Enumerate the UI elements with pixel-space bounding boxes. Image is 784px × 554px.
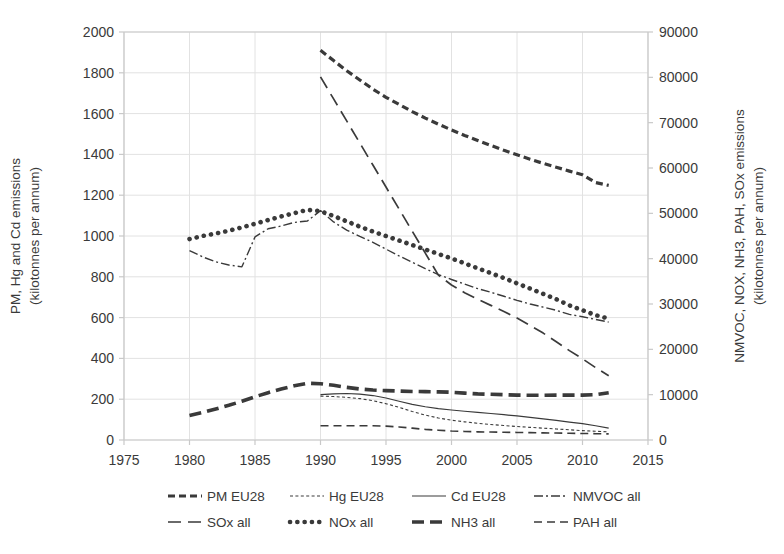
chart-canvas: 0200400600800100012001400160018002000 01…: [0, 0, 784, 554]
y-axis-right-tick-label: 90000: [659, 24, 698, 40]
y-axis-left-tick-label: 1600: [83, 106, 114, 122]
legend-label: Cd EU28: [451, 489, 506, 504]
x-axis-tick-label: 1995: [370, 452, 401, 468]
x-axis-tick-label: 1990: [305, 452, 336, 468]
x-axis-tick-label: 2000: [436, 452, 467, 468]
y-axis-left-tick-label: 1000: [83, 228, 114, 244]
legend-label: PAH all: [573, 515, 617, 530]
x-axis-tick-label: 2005: [501, 452, 532, 468]
y-axis-left-tick-label: 400: [91, 350, 115, 366]
legend-label: PM EU28: [207, 489, 265, 504]
y-axis-right-tick-label: 70000: [659, 115, 698, 131]
y-axis-left-tick-label: 200: [91, 391, 115, 407]
y-axis-left-tick-label: 1200: [83, 187, 114, 203]
legend-label: Hg EU28: [329, 489, 384, 504]
y-axis-left-tick-label: 1400: [83, 146, 114, 162]
y-axis-left-tick-label: 0: [106, 432, 114, 448]
legend-label: NMVOC all: [573, 489, 641, 504]
x-axis-tick-label: 2015: [632, 452, 663, 468]
y-axis-left-tick-label: 2000: [83, 24, 114, 40]
y-axis-right-tick-label: 60000: [659, 160, 698, 176]
y-axis-right-tick-label: 20000: [659, 341, 698, 357]
legend-label: NOx all: [329, 515, 373, 530]
emissions-trend-chart: 0200400600800100012001400160018002000 01…: [0, 0, 784, 554]
y-axis-right-tick-label: 0: [659, 432, 667, 448]
x-axis-tick-label: 1980: [174, 452, 205, 468]
y-axis-left-title-line2: (kilotonnes per annum): [27, 167, 42, 305]
y-axis-right-title-line2: (kilotonnes per annum): [751, 167, 766, 305]
y-axis-right-tick-label: 40000: [659, 251, 698, 267]
x-axis-tick-label: 2010: [567, 452, 598, 468]
x-axis-tick-label: 1975: [108, 452, 139, 468]
y-axis-right-tick-label: 50000: [659, 205, 698, 221]
y-axis-right-tick-label: 80000: [659, 69, 698, 85]
x-axis-tick-label: 1985: [239, 452, 270, 468]
legend-label: NH3 all: [451, 515, 495, 530]
y-axis-left-tick-label: 800: [91, 269, 115, 285]
y-axis-right-title-line1: NMVOC, NOX, NH3, PAH, SOx emissions: [732, 109, 747, 363]
legend-label: SOx all: [207, 515, 251, 530]
y-axis-right-tick-label: 30000: [659, 296, 698, 312]
y-axis-left-title-line1: PM, Hg and Cd emissions: [8, 158, 23, 314]
y-axis-left-tick-label: 1800: [83, 65, 114, 81]
y-axis-left-tick-label: 600: [91, 310, 115, 326]
y-axis-right-tick-label: 10000: [659, 387, 698, 403]
